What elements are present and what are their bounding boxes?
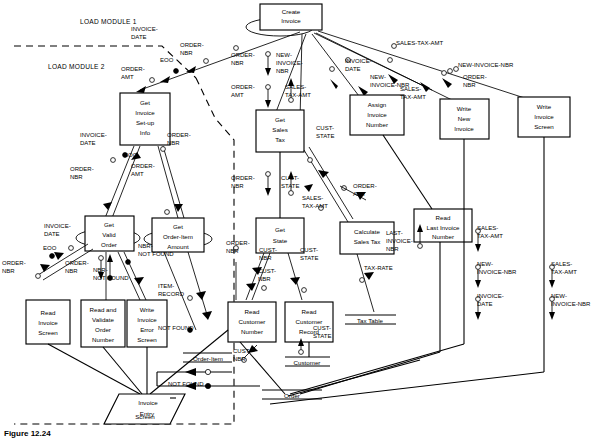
annotation-load-module-2: LOAD MODULE 2 <box>48 63 105 70</box>
couple-label-line: AMT <box>231 92 244 98</box>
couple-label-line: EOO <box>43 245 57 251</box>
couple-label: ITEM-RECORD <box>158 283 185 297</box>
module-read-and-validate-order-number-label: Read and <box>90 306 117 313</box>
couple-label: CUST-NBR <box>259 247 277 261</box>
couple-label: NBR-NOT FOUND <box>93 267 129 281</box>
couple-label: CUST-STATE <box>316 125 334 139</box>
svg-text:State: State <box>273 237 288 244</box>
couple-label-line: STATE <box>313 333 331 339</box>
couple-label-line: CUST- <box>258 268 276 274</box>
couple-label: CUST-STATE <box>281 175 299 189</box>
couple-label-line: TAX-AMT <box>477 233 503 239</box>
couple-label-line: NEW- <box>370 74 386 80</box>
couple-label-line: NBR- <box>93 267 108 273</box>
couple-label: TAX-RATE <box>364 265 393 271</box>
couple-label-line: STATE <box>300 255 318 261</box>
couple-label-line: TAX-AMT <box>400 94 426 100</box>
connector-assign-readlast <box>383 135 432 209</box>
couple-label: INVOICE-DATE <box>345 58 372 72</box>
store-tax-table-label: Tax Table <box>357 317 384 324</box>
couple-label-line: ORDER- <box>231 52 255 58</box>
svg-text:Order: Order <box>95 326 111 333</box>
couple-label-line: DATE <box>44 231 60 237</box>
couple-label: ORDER-NBR <box>70 166 94 180</box>
couple-label-line: DATE <box>131 34 147 40</box>
couple-label-line: ORDER- <box>121 66 145 72</box>
svg-text:Invoice: Invoice <box>135 109 155 116</box>
couple-label-line: LAST- <box>386 230 403 236</box>
couple-label-line: NBR <box>231 183 244 189</box>
connector-group-setup-children <box>105 146 184 218</box>
arrowheads-setup-children <box>103 147 183 215</box>
couple-label: NEW-INVOICE-NBR <box>551 293 591 307</box>
module-write-invoice-error-screen-label: Write <box>140 306 155 313</box>
structure-chart-canvas: Create Invoice Get Invoice Set-up Info G… <box>0 0 605 439</box>
svg-text:Customer: Customer <box>239 318 266 325</box>
couple-label-line: TAX-RATE <box>364 265 393 271</box>
couple-label-line: INVOICE- <box>345 58 372 64</box>
couple-label: SALES-TAX-AMT <box>302 195 328 209</box>
couple-label-line: CUST- <box>233 348 251 354</box>
module-read-invoice-screen-label: Read <box>41 309 56 316</box>
svg-text:Sales Tax: Sales Tax <box>354 238 382 245</box>
store-customer: Customer <box>285 357 330 366</box>
couple-label-line: INVOICE- <box>386 238 413 244</box>
module-write-new-invoice-label: Write <box>457 105 472 112</box>
couple-label-line: ORDER- <box>65 260 89 266</box>
couple-label-line: DATE <box>477 301 493 307</box>
couple-label-line: NBR <box>226 248 239 254</box>
couple-label-line: INVOICE- <box>276 60 303 66</box>
couple-label-line: INVOICE-NBR <box>477 269 517 275</box>
couple-label: CUST-NBR <box>258 268 276 282</box>
module-get-sales-tax-label: Get <box>275 116 285 123</box>
couple-label-line: SALES- <box>400 86 421 92</box>
couple-label: CUST-STATE <box>300 247 318 261</box>
couple-label: NEW-INVOICE-NBR <box>458 62 514 68</box>
couple-label: INVOICE-DATE <box>477 293 504 307</box>
svg-text:Screen: Screen <box>38 329 58 336</box>
couple-label-line: AMT <box>353 191 366 197</box>
svg-text:Order-Item: Order-Item <box>163 233 193 240</box>
couple-label-line: NBR- <box>138 243 153 249</box>
svg-text:Validate: Validate <box>92 316 114 323</box>
couple-label-line: CUST- <box>281 175 299 181</box>
store-order-item-label: Order-Item <box>193 355 223 362</box>
couple-label: SALES-TAX-AMT <box>285 84 311 98</box>
couple-label: INVOICE-DATE <box>44 223 71 237</box>
couple-label-line: SALES- <box>302 195 323 201</box>
couple-label: ORDER-NBR <box>180 42 204 56</box>
couple-label-line: INVOICE- <box>131 26 158 32</box>
svg-text:Invoice: Invoice <box>534 113 554 120</box>
svg-text:Error: Error <box>140 326 154 333</box>
couple-label-line: NEW- <box>477 261 493 267</box>
couple-label-line: ORDER- <box>70 166 94 172</box>
couple-label-line: STATE <box>281 183 299 189</box>
couple-label-line: NBR <box>167 140 180 146</box>
svg-text:Invoice: Invoice <box>38 319 58 326</box>
couple-label-line: NEW- <box>551 293 567 299</box>
svg-text:New: New <box>458 115 471 122</box>
couple-label-line: CUST- <box>259 247 277 253</box>
couple-label-line: ORDER- <box>131 163 155 169</box>
couple-label: SALES-TAX-AMT <box>396 40 444 46</box>
module-get-invoice-setup-info-label: Get <box>140 99 150 106</box>
couple-label-line: NBR <box>70 174 83 180</box>
couple-label-line: NBR <box>258 276 271 282</box>
couple-label: ORDER-NBR <box>2 260 26 274</box>
couple-label-line: ORDER- <box>231 84 255 90</box>
svg-text:Invoice: Invoice <box>454 125 474 132</box>
svg-text:Invoice: Invoice <box>281 17 301 24</box>
figure-caption-number: Figure 12.24 <box>4 429 51 438</box>
couple-label-line: NBR <box>259 255 272 261</box>
svg-text:Invoice: Invoice <box>137 316 157 323</box>
couple-label: SALES-TAX-AMT <box>551 261 577 275</box>
couple-label-line: NBR <box>276 68 289 74</box>
couple-markers-top <box>150 44 459 83</box>
svg-text:Number: Number <box>432 233 454 240</box>
svg-text:Screen: Screen <box>137 336 157 343</box>
module-write-invoice-screen-label: Write <box>537 103 552 110</box>
couple-label-line: EOO <box>160 57 174 63</box>
svg-text:Screen: Screen <box>135 413 155 420</box>
couple-label-line: AMT <box>131 171 144 177</box>
svg-text:Set-up: Set-up <box>136 119 155 126</box>
